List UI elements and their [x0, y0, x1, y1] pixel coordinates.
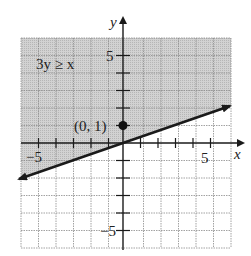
- x-tick-label-5: 5: [201, 150, 209, 166]
- test-point-dot: [119, 121, 128, 130]
- test-point-label: (0, 1): [74, 118, 107, 135]
- x-axis-label: x: [233, 146, 241, 162]
- y-tick-label-5: 5: [106, 48, 114, 64]
- y-axis-label: y: [108, 14, 117, 30]
- graph: (0, 1) 3y ≥ x x y −5 5 5 −5: [0, 0, 251, 256]
- y-tick-label-neg5: −5: [100, 223, 116, 239]
- inequality-label: 3y ≥ x: [36, 56, 75, 72]
- x-tick-label-neg5: −5: [26, 149, 42, 165]
